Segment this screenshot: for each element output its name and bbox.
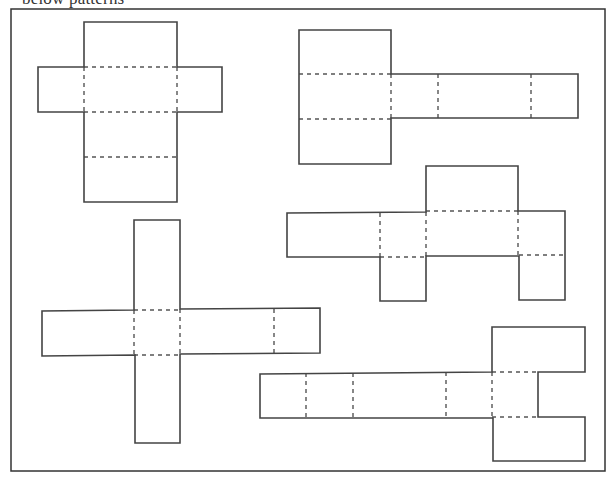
net-2 xyxy=(299,30,578,164)
net-outline xyxy=(299,30,578,164)
net-outline xyxy=(260,327,585,461)
cube-nets-figure xyxy=(0,0,615,478)
net-1 xyxy=(38,22,222,202)
net-outline xyxy=(287,166,565,301)
figure-frame xyxy=(11,9,605,471)
net-3 xyxy=(287,166,565,301)
net-5 xyxy=(260,327,585,461)
net-outline xyxy=(42,220,320,443)
nets-layer xyxy=(38,22,585,461)
net-4 xyxy=(42,220,320,443)
net-outline xyxy=(38,22,222,202)
